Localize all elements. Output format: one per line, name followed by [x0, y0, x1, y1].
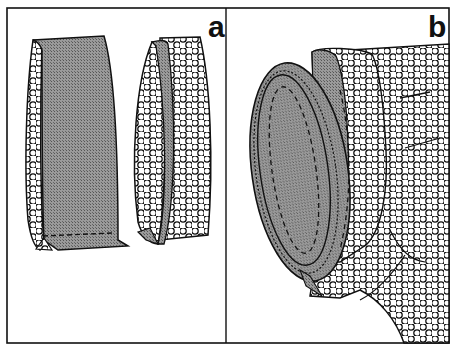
- panel-a-left-tube: [26, 36, 128, 250]
- panel-label-a: a: [208, 12, 225, 42]
- panel-label-b: b: [428, 12, 446, 42]
- sewing-diagram-figure: a b: [0, 0, 455, 351]
- panel-a-right-tube: [134, 37, 210, 244]
- diagram-canvas: [0, 0, 455, 351]
